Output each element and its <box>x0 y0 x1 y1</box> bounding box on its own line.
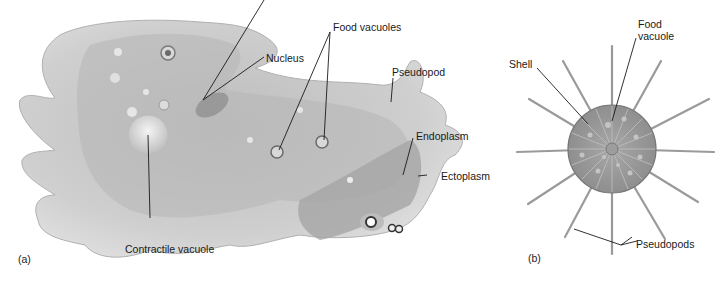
label-shell: Shell <box>509 58 532 70</box>
label-endoplasm: Endoplasm <box>416 130 469 142</box>
label-contractile-vacuole: Contractile vacuole <box>125 243 214 255</box>
amoeba-body <box>19 20 462 257</box>
label-food-vacuole-line2: vacuole <box>638 30 674 42</box>
label-pseudopod: Pseudopod <box>392 66 445 78</box>
label-ectoplasm: Ectoplasm <box>441 170 490 182</box>
panel-b-marker: (b) <box>528 252 541 264</box>
amoeba-illustration <box>0 0 722 281</box>
label-nucleus: Nucleus <box>266 52 304 64</box>
shelled-protozoan <box>517 46 714 254</box>
label-food-vacuole-line1: Food <box>638 18 662 30</box>
label-pseudopods: Pseudopods <box>636 238 694 250</box>
panel-a-marker: (a) <box>18 253 31 265</box>
label-food-vacuoles: Food vacuoles <box>333 21 401 33</box>
